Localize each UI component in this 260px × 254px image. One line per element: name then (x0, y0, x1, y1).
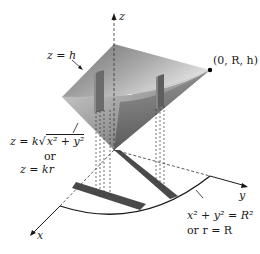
shadow-band-left (72, 182, 146, 210)
y-axis (210, 176, 246, 186)
point-label: (0, R, h) (213, 55, 258, 67)
cone-eq-sqrt: x² + y² (46, 134, 84, 148)
z-axis-label: z (119, 11, 125, 23)
x-axis-label: x (37, 230, 43, 242)
prism-right (156, 74, 164, 109)
cone-eq-prefix: z = k (10, 135, 39, 148)
shadow-band-right (114, 150, 178, 199)
cone-eq-kr: z = kr (20, 164, 54, 176)
y-axis-arrow-icon (241, 183, 248, 188)
cone-equation: z = k√x² + y² (10, 136, 84, 148)
prism-left (94, 70, 104, 113)
circle-equation: x² + y² = R² (187, 210, 253, 222)
top-plane-label: z = h (47, 50, 76, 62)
y-axis-dashed (114, 150, 210, 176)
cone-eq-or: or (44, 151, 56, 163)
z-axis-arrow-icon (112, 13, 117, 20)
cone-top-face (62, 44, 210, 97)
x-axis (31, 206, 60, 235)
y-axis-label: y (239, 190, 245, 202)
sqrt-icon: √ (39, 135, 46, 148)
pointer-circle-eq (196, 190, 203, 198)
circle-eq-alt: or r = R (187, 225, 232, 237)
point-0-R-h (208, 68, 212, 72)
pointer-cone-eq (73, 123, 78, 133)
